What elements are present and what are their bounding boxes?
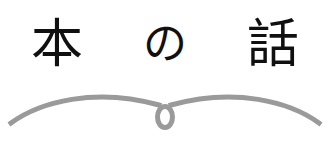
title-spacer-2	[198, 44, 240, 45]
ornament-center-loop	[158, 107, 173, 128]
title-character-1: 本	[24, 18, 90, 70]
ornament-stroke-group	[11, 97, 319, 128]
title-text: 本 の 話	[0, 14, 330, 74]
ornament-arc-right	[171, 97, 319, 123]
title-character-2: の	[132, 22, 198, 66]
ornament-arc-left	[11, 97, 159, 123]
title-spacer-1	[90, 44, 132, 45]
title-logo-card: 本 の 話	[0, 0, 330, 151]
title-character-3: 話	[240, 18, 306, 70]
open-book-swoosh-icon	[0, 76, 330, 138]
